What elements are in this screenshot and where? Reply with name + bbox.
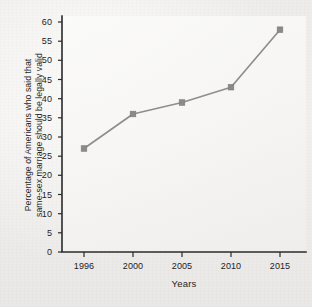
- x-tick-label-2000: 2000: [113, 261, 153, 271]
- x-tick-label-2005: 2005: [162, 261, 202, 271]
- figure-root: 60 55 50 45 40 35 30 25 20 15 10 5 0 199…: [0, 0, 312, 307]
- data-point-2010: [228, 84, 234, 90]
- x-tick-label-2010: 2010: [211, 261, 251, 271]
- y-axis-title-line-2: same-sex marriage should be legally vali…: [34, 17, 45, 253]
- x-axis-title: Years: [62, 278, 306, 289]
- data-point-2005: [179, 100, 185, 106]
- chart-axes: [62, 16, 306, 252]
- x-tick-label-1996: 1996: [64, 261, 104, 271]
- data-point-2015: [277, 27, 283, 33]
- data-point-markers: [81, 27, 283, 151]
- data-series-line: [84, 30, 280, 149]
- data-point-2000: [130, 111, 136, 117]
- y-axis-title-line-1: Percentage of Americans who said that: [23, 17, 34, 253]
- y-axis-title: Percentage of Americans who said that sa…: [23, 17, 45, 253]
- x-tick-label-2015: 2015: [260, 261, 300, 271]
- data-point-1996: [81, 146, 87, 152]
